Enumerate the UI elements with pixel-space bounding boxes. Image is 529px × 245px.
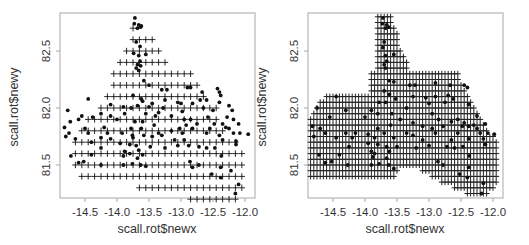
y-axis-ticks: 81.582.082.5 [288,40,308,176]
svg-text:-13.5: -13.5 [136,206,162,218]
left-plot-panel: -14.5-14.0-13.5-13.0-12.5-12.0 81.582.08… [0,0,264,245]
x-axis-ticks: -14.5-14.0-13.5-13.0-12.5-12.0 [72,198,258,218]
svg-text:-13.0: -13.0 [416,206,442,218]
y-axis-ticks: 81.582.082.5 [40,40,60,176]
svg-text:82.5: 82.5 [40,40,52,62]
y-axis-title: scall.rot$newy [7,67,21,147]
left-scatter-plot: -14.5-14.0-13.5-13.0-12.5-12.0 81.582.08… [0,0,264,245]
right-plot-panel: -14.5-14.0-13.5-13.0-12.5-12.0 81.582.08… [248,0,529,245]
svg-text:-14.0: -14.0 [352,206,378,218]
right-scatter-plot: -14.5-14.0-13.5-13.0-12.5-12.0 81.582.08… [248,0,529,245]
svg-text:-12.5: -12.5 [200,206,226,218]
svg-text:82.0: 82.0 [288,97,300,119]
x-axis-title: scall.rot$newx [117,222,197,236]
svg-text:81.5: 81.5 [288,154,300,176]
y-axis-title: scall.rot$newy [255,67,269,147]
svg-text:-14.0: -14.0 [104,206,130,218]
plot-frame [60,13,255,198]
svg-text:-14.5: -14.5 [72,206,98,218]
svg-text:81.5: 81.5 [40,154,52,176]
x-axis-title: scall.rot$newx [365,222,445,236]
svg-text:82.0: 82.0 [40,97,52,119]
observation-points [63,16,250,195]
svg-text:82.5: 82.5 [288,40,300,62]
svg-text:-13.5: -13.5 [384,206,410,218]
svg-text:-12.0: -12.0 [480,206,506,218]
x-axis-ticks: -14.5-14.0-13.5-13.0-12.5-12.0 [320,198,506,218]
svg-text:-14.5: -14.5 [320,206,346,218]
svg-text:-12.5: -12.5 [448,206,474,218]
svg-text:-13.0: -13.0 [168,206,194,218]
